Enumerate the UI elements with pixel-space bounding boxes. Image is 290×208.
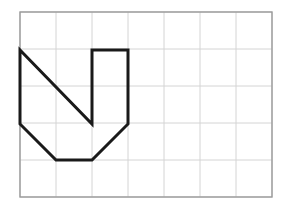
grid-polygon-figure <box>0 0 290 208</box>
figure-canvas <box>0 0 290 208</box>
figure-background <box>0 0 290 208</box>
